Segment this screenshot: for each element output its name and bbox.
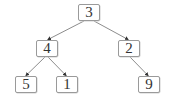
tree-node-left-right-leaf: 1 xyxy=(56,76,78,93)
tree-node-right-right-leaf: 9 xyxy=(138,76,160,93)
edge-4-to-1 xyxy=(48,57,66,76)
tree-node-root: 3 xyxy=(78,4,100,21)
tree-node-left-left-leaf: 5 xyxy=(15,76,37,93)
binary-tree-diagram: 3 4 2 5 1 9 xyxy=(0,0,170,101)
edge-2-to-9 xyxy=(130,57,148,76)
edge-4-to-5 xyxy=(26,57,45,76)
tree-node-right-child: 2 xyxy=(118,40,140,57)
edge-3-to-4 xyxy=(48,21,84,40)
tree-node-left-child: 4 xyxy=(36,40,58,57)
edge-3-to-2 xyxy=(94,21,128,40)
